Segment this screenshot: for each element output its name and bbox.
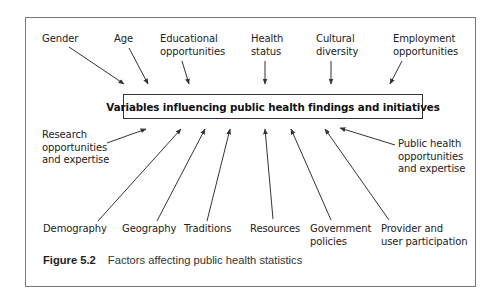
factor-employment-opportunities: Employment opportunities bbox=[393, 33, 458, 58]
arrow-employment bbox=[390, 61, 402, 84]
factor-cultural-line2: diversity bbox=[316, 46, 358, 59]
factor-age-label: Age bbox=[114, 33, 133, 46]
factor-provider-participation: Provider and user participation bbox=[381, 223, 467, 248]
factor-resources: Resources bbox=[250, 223, 300, 236]
factor-demography-label: Demography bbox=[43, 223, 107, 236]
factor-cultural-diversity: Cultural diversity bbox=[316, 33, 358, 58]
factor-research-line3: and expertise bbox=[42, 154, 109, 167]
factor-resources-label: Resources bbox=[250, 223, 300, 236]
factor-public-health: Public health opportunities and expertis… bbox=[398, 138, 465, 176]
factor-provider-line1: Provider and bbox=[381, 223, 467, 236]
factor-government-line1: Government bbox=[310, 223, 371, 236]
factor-traditions-label: Traditions bbox=[184, 223, 231, 236]
arrow-public-health bbox=[340, 128, 395, 145]
arrow-demography bbox=[98, 129, 181, 221]
factor-health-line1: Health bbox=[251, 33, 283, 46]
factor-gender-label: Gender bbox=[42, 33, 78, 46]
factor-research: Research opportunities and expertise bbox=[42, 129, 109, 167]
factor-government-line2: policies bbox=[310, 236, 371, 249]
factor-research-line2: opportunities bbox=[42, 142, 109, 155]
arrow-traditions bbox=[207, 129, 230, 221]
factor-geography-label: Geography bbox=[122, 223, 176, 236]
factor-public-health-line3: and expertise bbox=[398, 163, 465, 176]
arrow-resources bbox=[265, 129, 273, 219]
arrow-gender bbox=[69, 47, 124, 84]
central-node: Variables influencing public health find… bbox=[123, 94, 423, 119]
factor-provider-line2: user participation bbox=[381, 236, 467, 249]
factor-educational-line2: opportunities bbox=[160, 46, 225, 59]
figure-caption: Figure 5.2Factors affecting public healt… bbox=[43, 254, 302, 266]
figure-caption-text: Factors affecting public health statisti… bbox=[108, 254, 302, 266]
factor-gender: Gender bbox=[42, 33, 78, 46]
factor-employment-line1: Employment bbox=[393, 33, 458, 46]
factor-research-line1: Research bbox=[42, 129, 109, 142]
factor-demography: Demography bbox=[43, 223, 107, 236]
factor-public-health-line2: opportunities bbox=[398, 151, 465, 164]
factor-educational-line1: Educational bbox=[160, 33, 225, 46]
arrow-geography bbox=[157, 129, 205, 221]
factor-health-line2: status bbox=[251, 46, 283, 59]
arrow-government bbox=[291, 129, 331, 220]
factor-public-health-line1: Public health bbox=[398, 138, 465, 151]
factor-traditions: Traditions bbox=[184, 223, 231, 236]
factor-educational-opportunities: Educational opportunities bbox=[160, 33, 225, 58]
arrow-provider bbox=[325, 129, 389, 220]
arrow-research bbox=[107, 129, 146, 143]
factor-government-policies: Government policies bbox=[310, 223, 371, 248]
arrow-age bbox=[129, 48, 148, 84]
factor-employment-line2: opportunities bbox=[393, 46, 458, 59]
figure-number: Figure 5.2 bbox=[43, 254, 96, 266]
factor-health-status: Health status bbox=[251, 33, 283, 58]
factor-geography: Geography bbox=[122, 223, 176, 236]
factor-age: Age bbox=[114, 33, 133, 46]
arrow-educational bbox=[182, 61, 189, 84]
factor-cultural-line1: Cultural bbox=[316, 33, 358, 46]
